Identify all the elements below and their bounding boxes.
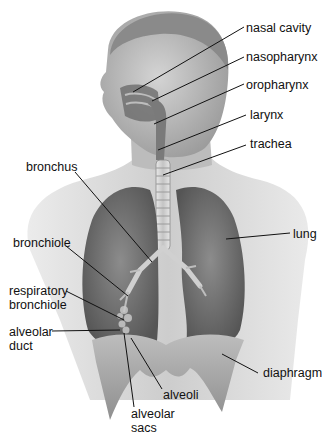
label-larynx: larynx [250, 108, 283, 122]
label-respiratory-bronchiole-line2: bronchiole [9, 298, 67, 312]
respiratory-diagram: nasal cavity nasopharynx oropharynx lary… [0, 0, 333, 433]
label-alveolar-sacs-line2: sacs [131, 421, 157, 433]
label-respiratory-bronchiole-line1: respiratory [9, 284, 68, 298]
label-diaphragm: diaphragm [263, 366, 322, 380]
label-trachea: trachea [250, 137, 292, 151]
label-bronchiole: bronchiole [13, 236, 71, 250]
label-alveoli: alveoli [163, 388, 198, 402]
label-alveolar-duct-line1: alveolar [9, 325, 53, 339]
label-nasal-cavity: nasal cavity [246, 21, 311, 35]
label-lung: lung [293, 227, 317, 241]
label-oropharynx: oropharynx [246, 78, 309, 92]
label-nasopharynx: nasopharynx [246, 50, 318, 64]
label-alveolar-duct-line2: duct [9, 339, 33, 353]
label-alveolar-sacs-line1: alveolar [131, 407, 175, 421]
label-bronchus: bronchus [26, 160, 77, 174]
